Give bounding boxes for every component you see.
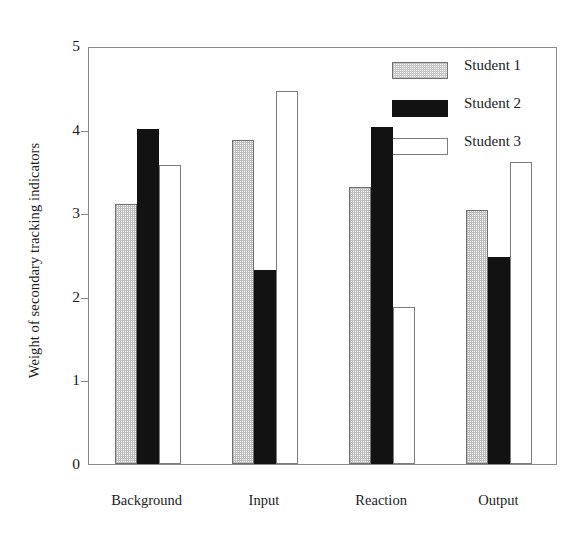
bar-output-student-1 — [466, 210, 488, 464]
legend-swatch-student-1 — [392, 62, 448, 79]
y-axis-tick-label: 0 — [40, 455, 80, 473]
bar-input-student-3 — [276, 91, 298, 464]
legend-label-student-2: Student 2 — [464, 95, 521, 112]
bar-background-student-2 — [137, 129, 159, 464]
x-axis-label-output: Output — [428, 492, 568, 509]
y-axis-tick-label: 3 — [40, 204, 80, 222]
bar-input-student-1 — [232, 140, 254, 464]
y-axis-tick-label: 1 — [40, 371, 80, 389]
bar-chart: Weight of secondary tracking indicators … — [0, 0, 586, 539]
legend-label-student-1: Student 1 — [464, 57, 521, 74]
legend-item: Student 1 — [392, 56, 542, 94]
bar-background-student-1 — [115, 204, 137, 464]
y-axis-tick-label: 2 — [40, 288, 80, 306]
bar-reaction-student-3 — [393, 307, 415, 464]
y-axis-tick-label: 5 — [40, 37, 80, 55]
legend-label-student-3: Student 3 — [464, 133, 521, 150]
bar-output-student-2 — [488, 257, 510, 464]
bar-background-student-3 — [159, 165, 181, 464]
bar-input-student-2 — [254, 270, 276, 464]
bar-reaction-student-1 — [349, 187, 371, 464]
legend-item: Student 2 — [392, 94, 542, 132]
bar-output-student-3 — [510, 162, 532, 464]
legend: Student 1 Student 2 Student 3 — [392, 56, 542, 170]
legend-swatch-student-2 — [392, 100, 448, 117]
bar-reaction-student-2 — [371, 127, 393, 464]
legend-swatch-student-3 — [392, 138, 448, 155]
y-axis-tick-label: 4 — [40, 121, 80, 139]
